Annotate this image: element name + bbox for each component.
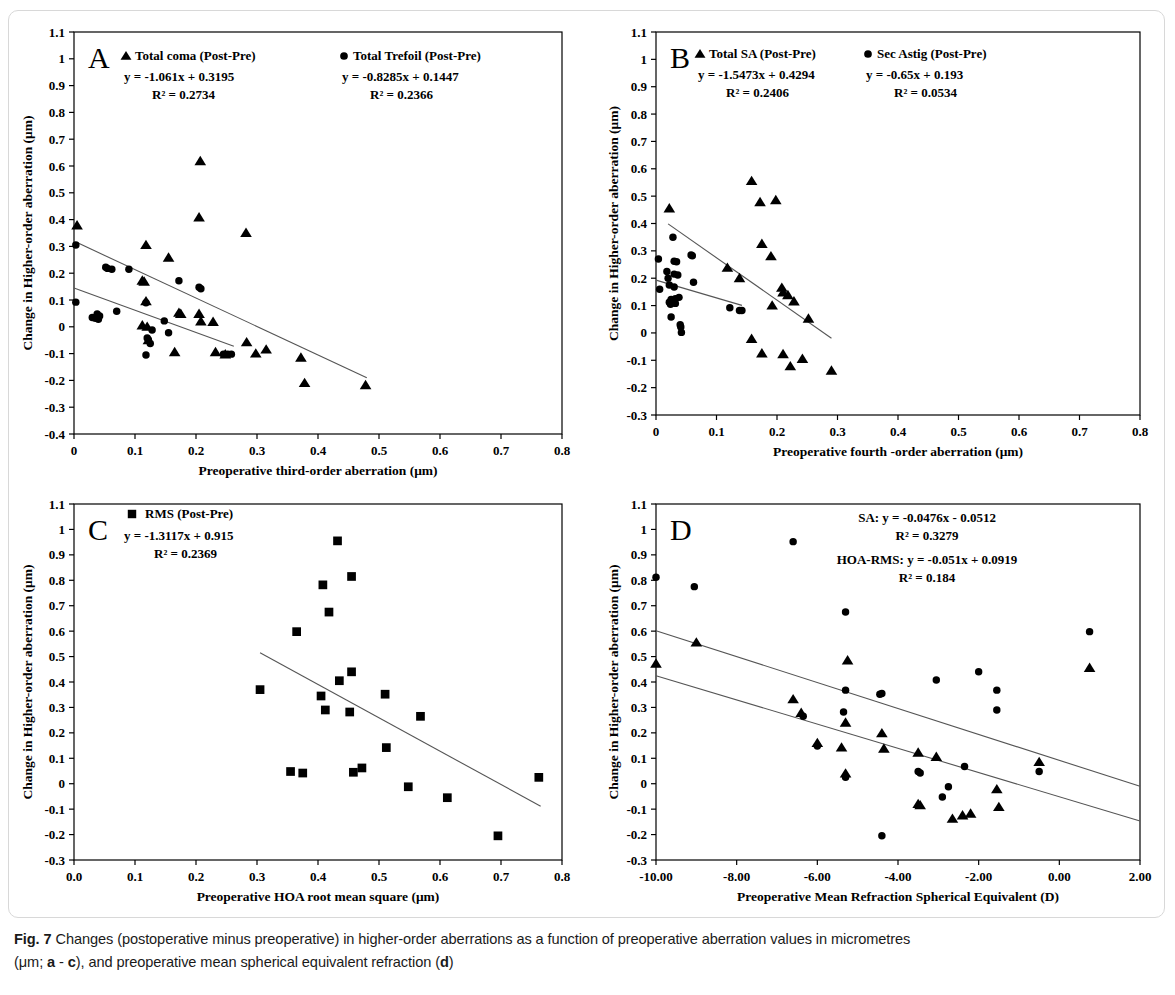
data-point-circle: [789, 538, 796, 545]
x-axis-tick-label: 0.2: [188, 443, 204, 458]
data-point-circle: [842, 774, 849, 781]
y-axis-tick-label: 0.3: [631, 700, 648, 715]
data-point-square: [256, 685, 265, 694]
data-point-triangle: [163, 252, 175, 261]
data-point-triangle: [722, 262, 734, 271]
x-axis-tick-label: 0.6: [1011, 424, 1028, 439]
data-point-circle: [664, 274, 671, 281]
data-point-triangle: [299, 378, 311, 387]
y-axis-tick-label: -0.3: [626, 408, 647, 423]
data-point-triangle: [777, 349, 789, 358]
data-point-circle: [814, 742, 821, 749]
x-axis-tick-label: 0.5: [371, 869, 388, 884]
data-point-triangle: [842, 655, 854, 664]
regression-equation: y = -0.65x + 0.193: [866, 67, 964, 82]
x-axis-tick-label: 0.8: [1132, 424, 1149, 439]
x-axis-tick-label: 0.4: [310, 443, 327, 458]
panel-letter: A: [88, 41, 110, 74]
data-point-triangle: [260, 344, 272, 353]
data-point-circle: [799, 713, 806, 720]
data-point-circle: [113, 308, 120, 315]
data-point-circle: [878, 690, 885, 697]
data-point-triangle: [193, 309, 205, 318]
data-point-triangle: [663, 203, 675, 212]
data-series: [663, 176, 837, 375]
x-axis-tick-label: 0.5: [950, 424, 967, 439]
x-axis-tick-label: 0.1: [127, 443, 143, 458]
y-axis-tick-label: 0.6: [631, 161, 648, 176]
regression-equation: y = -1.5473x + 0.4294: [698, 67, 815, 82]
data-point-circle: [1035, 768, 1042, 775]
data-point-triangle: [754, 197, 766, 206]
y-axis-tick-label: -0.3: [44, 400, 65, 415]
data-point-circle: [147, 340, 154, 347]
data-point-square: [382, 743, 391, 752]
x-axis-title: Preoperative HOA root mean square (μm): [197, 889, 440, 904]
caption-ref-c: c: [68, 954, 76, 970]
data-point-circle: [197, 285, 204, 292]
data-point-circle: [674, 271, 681, 278]
figure-root: -0.4-0.3-0.2-0.100.10.20.30.40.50.60.70.…: [0, 0, 1175, 995]
x-axis-tick-label: -4.00: [884, 869, 911, 884]
y-axis-tick-label: 1: [59, 522, 66, 537]
caption-text-line-2-pre: (μm;: [14, 954, 47, 970]
x-axis-tick-label: -8.00: [723, 869, 750, 884]
x-axis-title: Preoperative fourth -order aberration (μ…: [773, 444, 1023, 459]
y-axis-tick-label: 0.4: [49, 212, 66, 227]
data-point-circle: [842, 686, 849, 693]
data-point-circle: [726, 304, 733, 311]
data-point-circle: [663, 268, 670, 275]
data-point-circle: [72, 241, 79, 248]
x-axis-title: Preoperative Mean Refraction Spherical E…: [737, 889, 1059, 904]
y-axis-title: Change in Higher-order aberration (μm): [20, 116, 35, 351]
r-squared-value: R² = 0.184: [899, 570, 956, 585]
x-axis-tick-label: 0.4: [890, 424, 907, 439]
data-point-triangle: [210, 347, 222, 356]
y-axis-tick-label: 0.7: [49, 598, 66, 613]
data-point-triangle: [746, 176, 758, 185]
y-axis-tick-label: 0.3: [49, 700, 66, 715]
y-axis-tick-label: 0.1: [631, 751, 647, 766]
y-axis-tick-label: 0.5: [631, 189, 648, 204]
data-point-triangle: [993, 802, 1005, 811]
y-axis-tick-label: 0.7: [631, 598, 648, 613]
data-point-circle: [652, 574, 659, 581]
y-axis-tick-label: 0.4: [631, 675, 648, 690]
data-point-circle: [993, 706, 1000, 713]
data-point-triangle: [878, 743, 890, 752]
panel-c-chart: -0.3-0.2-0.100.10.20.30.40.50.60.70.80.9…: [14, 482, 592, 922]
data-point-square: [534, 773, 543, 782]
data-series: [655, 233, 746, 336]
y-axis-tick-label: -0.1: [44, 346, 65, 361]
x-axis-title: Preoperative third-order aberration (μm): [198, 463, 437, 478]
data-point-triangle: [241, 337, 253, 346]
y-axis-tick-label: 0.9: [49, 547, 66, 562]
x-axis-tick-label: 0.1: [708, 424, 724, 439]
trend-line: [656, 631, 1140, 787]
data-point-circle: [175, 277, 182, 284]
y-axis-tick-label: 0: [641, 776, 648, 791]
data-point-circle: [667, 313, 674, 320]
data-point-triangle: [1084, 663, 1096, 672]
caption-ref-a: a: [47, 954, 55, 970]
y-axis-tick-label: 1.1: [631, 25, 647, 40]
y-axis-tick-label: 0: [641, 325, 648, 340]
data-point-square: [347, 572, 356, 581]
data-point-square: [319, 581, 328, 590]
plot-area-border: [74, 32, 562, 434]
data-point-triangle: [650, 658, 662, 667]
data-point-circle: [840, 708, 847, 715]
r-squared-value: R² = 0.2734: [152, 87, 215, 102]
y-axis-tick-label: 1: [59, 51, 66, 66]
data-point-square: [349, 768, 358, 777]
data-point-circle: [878, 832, 885, 839]
data-point-triangle: [360, 380, 372, 389]
data-point-triangle: [784, 361, 796, 370]
y-axis-title: Change in Higher-order aberration (μm): [606, 106, 621, 341]
x-axis-tick-label: 0.3: [249, 869, 266, 884]
data-point-triangle: [695, 49, 706, 58]
y-axis-tick-label: -0.2: [626, 380, 647, 395]
y-axis-tick-label: -0.3: [44, 853, 65, 868]
y-axis-tick-label: -0.1: [626, 353, 647, 368]
legend-marker-1: [121, 51, 132, 60]
